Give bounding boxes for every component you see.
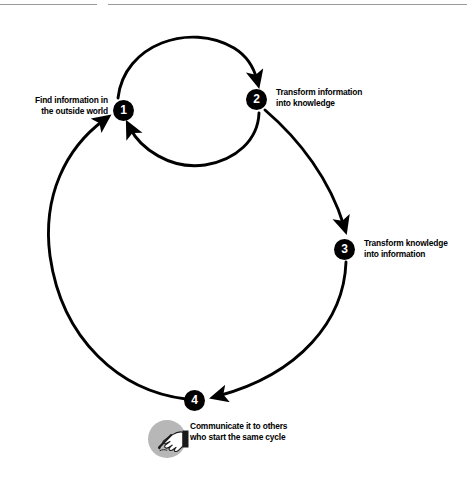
arc-2-to-3	[265, 110, 344, 226]
cycle-node-4: 4	[184, 390, 205, 411]
cycle-node-1: 1	[113, 100, 134, 121]
cycle-label-2: Transform information into knowledge	[276, 87, 451, 108]
cycle-label-4: Communicate it to others who start the s…	[190, 421, 340, 442]
cycle-node-3: 3	[334, 239, 355, 260]
arc-2-to-1	[130, 113, 259, 166]
arc-4-to-1	[48, 120, 186, 399]
arc-3-to-4	[218, 262, 346, 396]
cycle-node-2: 2	[246, 89, 267, 110]
cycle-label-3: Transform knowledge into information	[364, 238, 467, 259]
hand-writing-icon	[156, 422, 194, 458]
cycle-label-1: Find information in the outside world	[0, 95, 108, 116]
communicate-illustration	[148, 418, 194, 464]
arc-1-to-2	[118, 37, 257, 98]
diagram-canvas: 1 2 3 4 Find information in the outside …	[0, 0, 467, 488]
